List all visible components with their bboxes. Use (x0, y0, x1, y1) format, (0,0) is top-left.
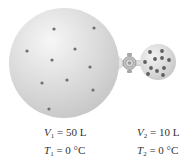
temperature-subscript: 1 (50, 150, 54, 158)
stopcock-valve-icon[interactable] (123, 53, 136, 73)
gas-molecule (155, 69, 159, 73)
gas-molecule (91, 88, 94, 91)
small-flask (140, 44, 176, 80)
gas-molecule (143, 60, 147, 64)
gas-molecule (47, 107, 50, 110)
gas-molecule (65, 78, 68, 81)
volume-symbol: V (44, 126, 51, 138)
flask-2-temperature-label: T2 = 0 °C (137, 145, 178, 158)
temperature-value: = 0 °C (149, 144, 178, 156)
volume-value: = 10 L (150, 126, 179, 138)
volume-subscript: 1 (51, 132, 55, 140)
gas-molecule (167, 58, 171, 62)
gas-molecule (92, 26, 95, 29)
gas-molecule (162, 66, 166, 70)
flask-1-temperature-label: T1 = 0 °C (44, 145, 85, 158)
gas-molecule (153, 57, 157, 61)
gas-molecule (149, 66, 153, 70)
gas-molecule (25, 49, 28, 52)
gas-molecule (160, 56, 164, 60)
gas-flasks-diagram (0, 0, 183, 165)
gas-molecule (40, 81, 43, 84)
gas-molecule (148, 50, 152, 54)
gas-molecule (160, 49, 164, 53)
temperature-subscript: 2 (143, 150, 147, 158)
gas-molecule (88, 65, 91, 68)
flask-1-volume-label: V1 = 50 L (44, 127, 86, 140)
gas-molecule (73, 47, 76, 50)
volume-subscript: 2 (144, 132, 148, 140)
gas-molecule (52, 27, 55, 30)
gas-molecule (146, 72, 150, 76)
flask-2-volume-label: V2 = 10 L (137, 127, 179, 140)
large-flask (9, 8, 119, 118)
temperature-value: = 0 °C (56, 144, 85, 156)
gas-molecule (161, 73, 165, 77)
volume-symbol: V (137, 126, 144, 138)
gas-molecule (50, 58, 53, 61)
volume-value: = 50 L (57, 126, 86, 138)
